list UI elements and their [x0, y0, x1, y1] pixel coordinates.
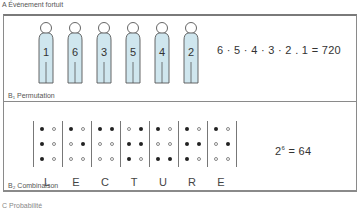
braille-cell — [120, 121, 149, 167]
raised-dot — [185, 127, 189, 131]
raised-dot — [98, 127, 102, 131]
braille-letter: E — [62, 176, 90, 188]
raised-dot — [81, 142, 85, 146]
raised-dot — [214, 127, 218, 131]
flat-dot — [52, 157, 56, 161]
flat-dot — [81, 127, 85, 131]
raised-dot — [168, 157, 172, 161]
section-a-caption: A Événement fortuit — [2, 1, 63, 8]
figure-number: 4 — [151, 46, 173, 58]
figure-number: 2 — [180, 46, 202, 58]
formula-result: = 64 — [285, 145, 311, 157]
raised-dot — [185, 157, 189, 161]
person-figure: 2 — [180, 22, 202, 84]
combination-formula: 26 = 64 — [275, 145, 311, 157]
person-figure: 5 — [122, 22, 144, 84]
flat-dot — [197, 157, 201, 161]
raised-dot — [197, 142, 201, 146]
combination-caption: B₂ Combinaison — [8, 182, 58, 189]
section-divider — [3, 101, 357, 102]
raised-dot — [40, 142, 44, 146]
flat-dot — [168, 142, 172, 146]
flat-dot — [156, 142, 160, 146]
flat-dot — [226, 127, 230, 131]
flat-dot — [197, 127, 201, 131]
braille-cell — [149, 121, 178, 167]
figure-number: 3 — [93, 46, 115, 58]
person-figure: 6 — [64, 22, 86, 84]
permutation-formula: 6 · 5 · 4 · 3 · 2 . 1 = 720 — [217, 44, 341, 56]
flat-dot — [127, 127, 131, 131]
raised-dot — [156, 127, 160, 131]
braille-letter: C — [91, 176, 119, 188]
person-figure: 3 — [93, 22, 115, 84]
raised-dot — [139, 127, 143, 131]
flat-dot — [214, 157, 218, 161]
flat-dot — [69, 157, 73, 161]
raised-dot — [69, 127, 73, 131]
raised-dot — [127, 142, 131, 146]
braille-cell — [207, 121, 237, 167]
raised-dot — [110, 127, 114, 131]
flat-dot — [98, 142, 102, 146]
braille-cell — [91, 121, 120, 167]
flat-dot — [139, 157, 143, 161]
raised-dot — [40, 127, 44, 131]
flat-dot — [226, 157, 230, 161]
section-c-caption: C Probabilité — [2, 202, 42, 208]
raised-dot — [40, 157, 44, 161]
raised-dot — [127, 157, 131, 161]
braille-letter: E — [207, 176, 235, 188]
braille-cell — [62, 121, 91, 167]
flat-dot — [168, 127, 172, 131]
braille-grid — [33, 121, 237, 167]
flat-dot — [52, 127, 56, 131]
raised-dot — [139, 142, 143, 146]
person-figure: 4 — [151, 22, 173, 84]
braille-letter: T — [120, 176, 148, 188]
flat-dot — [214, 142, 218, 146]
figure-number: 5 — [122, 46, 144, 58]
figure-number: 6 — [64, 46, 86, 58]
raised-dot — [226, 142, 230, 146]
flat-dot — [81, 157, 85, 161]
flat-dot — [69, 142, 73, 146]
braille-letter: U — [149, 176, 177, 188]
flat-dot — [110, 142, 114, 146]
braille-cell — [33, 121, 62, 167]
raised-dot — [185, 142, 189, 146]
braille-letter: R — [178, 176, 206, 188]
person-figure: 1 — [35, 22, 57, 84]
flat-dot — [52, 142, 56, 146]
figure-number: 1 — [35, 46, 57, 58]
flat-dot — [98, 157, 102, 161]
raised-dot — [156, 157, 160, 161]
flat-dot — [110, 157, 114, 161]
braille-cell — [178, 121, 207, 167]
permutation-caption: B₁ Permutation — [8, 92, 55, 99]
